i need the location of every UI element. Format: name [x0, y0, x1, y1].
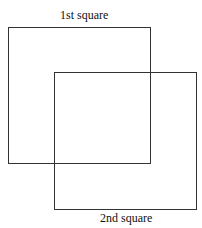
label-second-square: 2nd square: [100, 211, 152, 226]
label-first-square: 1st square: [60, 8, 108, 23]
second-square: [54, 72, 197, 210]
